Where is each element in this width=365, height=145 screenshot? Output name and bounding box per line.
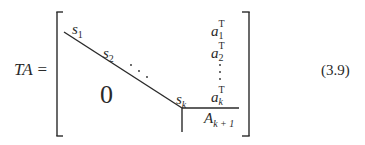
entry-base: a [211, 23, 219, 39]
equals-sign: = [38, 60, 48, 79]
bottom-right-block: Ak + 1 [204, 110, 234, 126]
matrix-structure-lines [0, 0, 365, 145]
left-bracket [56, 12, 63, 136]
row-vector-a1-transpose: aT1 [211, 23, 226, 39]
equation-number: (3.9) [321, 60, 350, 80]
block-subscript: k + 1 [213, 118, 234, 129]
diagonal-entry-s1: s1 [72, 21, 83, 37]
entry-subscript: 1 [78, 29, 83, 40]
entry-base: a [211, 89, 219, 105]
entry-subscript: k [182, 99, 186, 110]
diagonal-line [64, 32, 182, 108]
diagonal-entry-sk: sk [176, 91, 186, 107]
entry-subscript: 2 [109, 53, 114, 64]
lhs-variable: TA [14, 60, 33, 79]
row-vector-ak-transpose: aTk [211, 89, 226, 105]
row-vector-a2-transpose: aT2 [211, 45, 226, 61]
diagonal-entry-s2: s2 [103, 45, 114, 61]
equation-lhs: TA= [14, 60, 47, 80]
right-bracket [242, 12, 250, 136]
block-base: A [204, 110, 213, 126]
entry-base: a [211, 45, 219, 61]
vertical-ellipsis-dots [219, 64, 221, 80]
zero-block: 0 [100, 82, 113, 108]
